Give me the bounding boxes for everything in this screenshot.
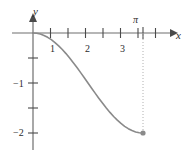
x-axis-label: x bbox=[176, 30, 181, 41]
graph-figure: y x π 1 2 3 −1 −2 bbox=[0, 0, 187, 161]
endpoint-dot bbox=[140, 130, 145, 135]
coordinate-plot bbox=[0, 0, 187, 161]
pi-tick-label: π bbox=[133, 15, 138, 25]
y-tick-label-minus-2: −2 bbox=[13, 128, 24, 138]
x-tick-label-2: 2 bbox=[85, 44, 90, 54]
y-tick-label-minus-1: −1 bbox=[13, 79, 24, 89]
x-tick-label-1: 1 bbox=[50, 44, 55, 54]
x-tick-label-3: 3 bbox=[120, 44, 125, 54]
y-axis-label: y bbox=[33, 6, 38, 17]
